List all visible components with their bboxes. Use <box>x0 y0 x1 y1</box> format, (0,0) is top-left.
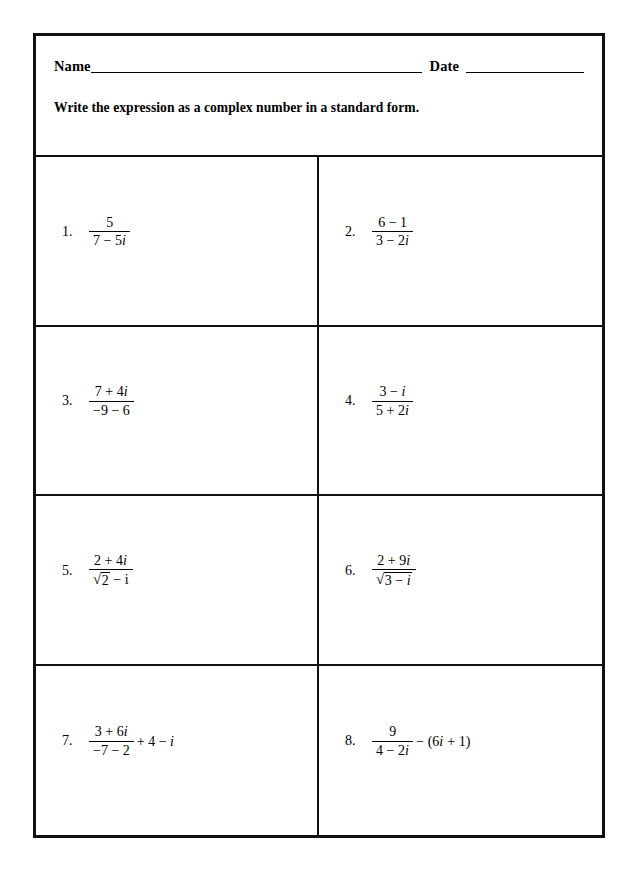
problem-cell-2[interactable]: 2. 6 − 1 3 − 2i <box>319 157 602 327</box>
fraction-numerator: 7 + 4i <box>91 384 132 400</box>
problem-cell-3[interactable]: 3. 7 + 4i −9 − 6 <box>36 327 319 497</box>
fraction-denominator: 4 − 2i <box>372 741 413 758</box>
fraction-numerator: 2 + 9i <box>373 553 414 569</box>
radicand: 2 <box>101 572 110 588</box>
problem-cell-6[interactable]: 6. 2 + 9i √ 3 − i <box>319 496 602 666</box>
fraction-denominator: −7 − 2 <box>89 741 134 758</box>
fraction: 3 − i 5 + 2i <box>372 384 413 418</box>
problem-number: 8. <box>345 733 371 749</box>
name-write-in-line[interactable] <box>91 72 422 73</box>
problem-expression: 3 − i 5 + 2i <box>371 384 414 418</box>
problem-number: 5. <box>62 563 88 579</box>
fraction-numerator: 9 <box>385 724 400 740</box>
problem-number: 1. <box>62 224 88 240</box>
fraction: 2 + 9i √ 3 − i <box>372 553 416 589</box>
fraction-numerator: 5 <box>102 215 117 231</box>
problem-number: 2. <box>345 224 371 240</box>
problem-cell-8[interactable]: 8. 9 4 − 2i − (6i + 1) <box>319 666 602 836</box>
fraction: 3 + 6i −7 − 2 <box>89 724 134 758</box>
fraction-denominator: 3 − 2i <box>372 231 413 248</box>
problem-expression: 5 7 − 5i <box>88 215 131 249</box>
fraction-numerator: 3 − i <box>376 384 410 400</box>
header-block: Name Date Write the expression as a comp… <box>36 36 602 155</box>
fraction-numerator: 3 + 6i <box>91 724 132 740</box>
fraction: 2 + 4i √ 2 − i <box>89 553 133 589</box>
denominator-remainder: − i <box>110 572 129 587</box>
fraction: 5 7 − 5i <box>89 215 130 249</box>
problem-number: 7. <box>62 733 88 749</box>
expression-tail: − (6i + 1) <box>416 734 470 749</box>
fraction: 6 − 1 3 − 2i <box>372 215 413 249</box>
fraction-numerator: 2 + 4i <box>90 553 131 569</box>
problem-expression: 3 + 6i −7 − 2 + 4 − i <box>88 724 174 758</box>
fraction-denominator: 7 − 5i <box>89 231 130 248</box>
problem-expression: 2 + 9i √ 3 − i <box>371 553 417 589</box>
radical-icon: √ <box>93 572 101 587</box>
problem-number: 3. <box>62 393 88 409</box>
fraction-denominator: 5 + 2i <box>372 401 413 418</box>
fraction-denominator: √ 3 − i <box>372 569 416 588</box>
square-root: √ 2 <box>93 571 110 588</box>
radical-icon: √ <box>376 572 384 587</box>
fraction: 7 + 4i −9 − 6 <box>89 384 134 418</box>
fraction-denominator: −9 − 6 <box>89 401 134 418</box>
radicand: 3 − i <box>384 572 412 588</box>
problem-cell-5[interactable]: 5. 2 + 4i √ 2 − i <box>36 496 319 666</box>
fraction: 9 4 − 2i <box>372 724 413 758</box>
problem-expression: 2 + 4i √ 2 − i <box>88 553 134 589</box>
problem-cell-7[interactable]: 7. 3 + 6i −7 − 2 + 4 − i <box>36 666 319 836</box>
fraction-numerator: 6 − 1 <box>374 215 411 231</box>
problem-number: 6. <box>345 563 371 579</box>
problem-cell-4[interactable]: 4. 3 − i 5 + 2i <box>319 327 602 497</box>
name-date-row: Name Date <box>54 58 584 75</box>
instruction-text: Write the expression as a complex number… <box>54 100 584 116</box>
problem-expression: 9 4 − 2i − (6i + 1) <box>371 724 470 758</box>
date-label: Date <box>430 58 459 75</box>
square-root: √ 3 − i <box>376 571 412 588</box>
worksheet-page: Name Date Write the expression as a comp… <box>33 33 605 838</box>
problem-cell-1[interactable]: 1. 5 7 − 5i <box>36 157 319 327</box>
problem-grid: 1. 5 7 − 5i 2. 6 − 1 3 − 2i 3. <box>36 155 602 835</box>
date-write-in-line[interactable] <box>466 72 584 73</box>
expression-tail: + 4 − i <box>137 734 175 749</box>
name-label: Name <box>54 58 91 75</box>
problem-expression: 7 + 4i −9 − 6 <box>88 384 135 418</box>
problem-expression: 6 − 1 3 − 2i <box>371 215 414 249</box>
fraction-denominator: √ 2 − i <box>89 569 133 588</box>
problem-number: 4. <box>345 393 371 409</box>
